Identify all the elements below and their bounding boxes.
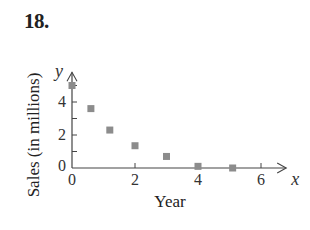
data-point-marker xyxy=(106,127,113,134)
x-tick-label: 0 xyxy=(68,171,76,188)
x-tick-label: 6 xyxy=(257,171,265,188)
x-axis-label: Year xyxy=(154,192,185,212)
data-point-marker xyxy=(132,142,139,149)
data-point-marker xyxy=(87,105,94,112)
data-point-marker xyxy=(195,163,202,170)
data-point-marker xyxy=(229,165,236,172)
x-axis-variable: x xyxy=(290,169,299,189)
data-point-marker xyxy=(69,82,76,89)
x-tick-label: 2 xyxy=(131,171,139,188)
y-tick-label: 4 xyxy=(58,93,66,110)
y-tick-label: 2 xyxy=(58,126,66,143)
x-tick-label: 4 xyxy=(194,171,202,188)
data-point-marker xyxy=(163,153,170,160)
y-tick-label: 0 xyxy=(58,157,66,174)
y-axis-variable: y xyxy=(53,61,63,81)
